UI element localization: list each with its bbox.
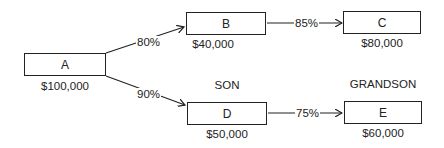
node-e-amount: $60,000 bbox=[344, 127, 422, 139]
node-c-box: C bbox=[343, 11, 421, 34]
son-role-label: SON bbox=[187, 79, 267, 91]
node-d-box: D bbox=[187, 102, 267, 125]
node-d-amount: $50,000 bbox=[187, 128, 267, 140]
node-a-amount: $100,000 bbox=[24, 80, 106, 92]
edge-a-d-percent: 90% bbox=[136, 88, 161, 100]
node-d-label: D bbox=[223, 107, 232, 121]
node-b-box: B bbox=[186, 12, 266, 35]
edge-b-c-percent: 85% bbox=[294, 17, 319, 29]
node-a-box: A bbox=[24, 53, 106, 76]
node-a-label: A bbox=[61, 58, 69, 72]
node-e-label: E bbox=[379, 106, 387, 120]
ownership-diagram: A $100,000 B $40,000 C $80,000 SON GRAND… bbox=[0, 0, 444, 148]
edge-a-b-percent: 80% bbox=[136, 36, 161, 48]
node-c-amount: $80,000 bbox=[343, 37, 421, 49]
node-e-box: E bbox=[344, 101, 422, 124]
node-c-label: C bbox=[378, 16, 387, 30]
node-b-amount: $40,000 bbox=[186, 38, 240, 50]
node-b-label: B bbox=[222, 17, 230, 31]
grandson-role-label: GRANDSON bbox=[344, 78, 422, 90]
edge-d-e-percent: 75% bbox=[295, 107, 320, 119]
